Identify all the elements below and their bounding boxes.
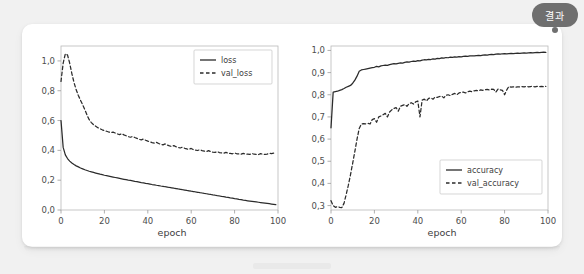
x-tick-label: 40 <box>142 216 153 226</box>
loss-chart-xlabel: epoch <box>158 227 187 238</box>
x-tick-label: 80 <box>499 216 510 226</box>
accuracy-chart-svg: 0,30,40,50,60,70,80,91,0020406080100 acc… <box>292 24 562 247</box>
y-tick-label: 0,3 <box>311 201 325 211</box>
x-tick-label: 0 <box>58 216 63 226</box>
result-badge[interactable]: 결과 <box>532 3 578 27</box>
legend-label-val_accuracy: val_accuracy <box>467 179 519 188</box>
y-tick-label: 0,5 <box>311 156 325 166</box>
y-tick-label: 0,7 <box>311 112 325 122</box>
y-tick-label: 1,0 <box>41 56 55 66</box>
legend-label-loss: loss <box>221 56 236 65</box>
y-tick-label: 0,4 <box>311 178 325 188</box>
x-tick-label: 80 <box>229 216 240 226</box>
accuracy-chart-xlabel: epoch <box>428 227 457 238</box>
x-tick-label: 100 <box>540 216 556 226</box>
y-tick-label: 0,0 <box>41 205 55 215</box>
series-line-loss <box>61 121 276 205</box>
legend-label-val_loss: val_loss <box>221 69 252 78</box>
card-shadow <box>24 246 560 252</box>
x-tick-label: 60 <box>456 216 467 226</box>
bottom-strip <box>253 263 331 269</box>
y-tick-label: 0,8 <box>311 90 325 100</box>
loss-chart-svg: 0,00,20,40,60,81,0020406080100 lossval_l… <box>22 24 292 247</box>
badge-dot-icon <box>552 27 558 33</box>
y-tick-label: 0,8 <box>41 86 55 96</box>
y-tick-label: 0,6 <box>311 134 325 144</box>
y-tick-label: 1,0 <box>311 45 325 55</box>
legend-label-accuracy: accuracy <box>467 166 503 175</box>
y-tick-label: 0,2 <box>41 175 55 185</box>
accuracy-chart-panel: 0,30,40,50,60,70,80,91,0020406080100 acc… <box>292 24 562 247</box>
x-tick-label: 100 <box>270 216 286 226</box>
series-line-accuracy <box>331 52 546 128</box>
y-tick-label: 0,4 <box>41 145 55 155</box>
y-tick-label: 0,6 <box>41 116 55 126</box>
x-tick-label: 40 <box>412 216 423 226</box>
x-tick-label: 0 <box>328 216 333 226</box>
x-tick-label: 60 <box>186 216 197 226</box>
charts-container: 0,00,20,40,60,81,0020406080100 lossval_l… <box>22 24 562 247</box>
x-tick-label: 20 <box>369 216 380 226</box>
charts-card: 0,00,20,40,60,81,0020406080100 lossval_l… <box>22 24 562 247</box>
x-tick-label: 20 <box>99 216 110 226</box>
y-tick-label: 0,9 <box>311 68 325 78</box>
loss-chart-panel: 0,00,20,40,60,81,0020406080100 lossval_l… <box>22 24 292 247</box>
